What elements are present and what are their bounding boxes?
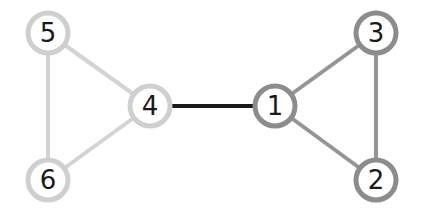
node-5: 5 [28, 13, 68, 53]
edges [48, 33, 376, 180]
node-label: 6 [40, 165, 57, 195]
node-2: 2 [356, 160, 396, 200]
node-3: 3 [356, 13, 396, 53]
node-label: 3 [368, 18, 385, 48]
graph-diagram: 123456 [0, 0, 425, 220]
node-label: 2 [368, 165, 385, 195]
node-4: 4 [130, 86, 170, 126]
node-label: 4 [142, 91, 159, 121]
node-label: 5 [40, 18, 57, 48]
node-6: 6 [28, 160, 68, 200]
node-label: 1 [267, 91, 284, 121]
node-1: 1 [255, 86, 295, 126]
